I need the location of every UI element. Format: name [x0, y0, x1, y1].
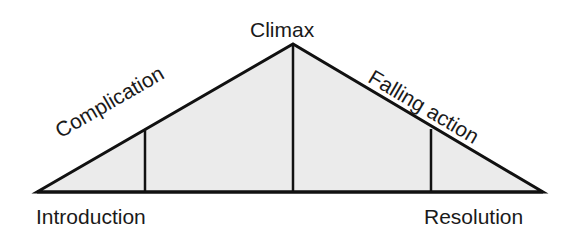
- label-introduction: Introduction: [36, 206, 146, 227]
- label-climax: Climax: [250, 19, 314, 40]
- label-resolution: Resolution: [424, 206, 523, 227]
